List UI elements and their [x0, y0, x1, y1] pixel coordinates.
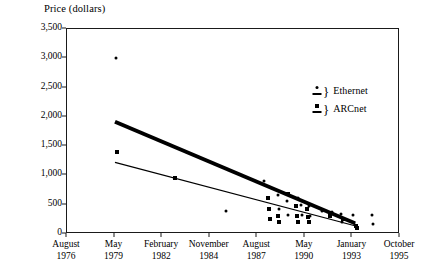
data-point-ethernet — [352, 213, 355, 216]
data-point-ethernet — [371, 214, 374, 217]
x-tick-month: August — [52, 239, 79, 251]
x-tick-label: May1979 — [104, 239, 123, 262]
data-point-ethernet — [331, 211, 334, 214]
data-point-arcnet — [341, 217, 345, 221]
data-point-arcnet — [115, 150, 119, 154]
chart-figure: Price (dollars) 05001,0001,5002,0002,500… — [0, 0, 442, 276]
data-point-arcnet — [328, 214, 332, 218]
x-tick-mark — [208, 233, 209, 237]
arcnet-marker-icon — [311, 103, 322, 116]
data-point-arcnet — [173, 176, 177, 180]
trend-line-ethernet — [115, 122, 355, 223]
x-tick-month: January — [337, 239, 367, 251]
data-point-ethernet — [301, 213, 304, 216]
x-tick-year: 1993 — [337, 251, 367, 263]
data-point-arcnet — [355, 226, 359, 230]
ethernet-marker-icon — [311, 85, 322, 98]
data-point-arcnet — [305, 207, 309, 211]
x-tick-label: February1982 — [144, 239, 178, 262]
x-tick-label: January1993 — [337, 239, 367, 262]
y-tick-label: 1,000 — [22, 170, 62, 180]
data-point-ethernet — [321, 209, 324, 212]
x-tick-mark — [351, 233, 352, 237]
x-tick-label: August1987 — [243, 239, 270, 262]
legend-label-ethernet: Ethernet — [333, 86, 368, 96]
data-point-ethernet — [115, 57, 118, 60]
brace-icon: } — [323, 85, 329, 98]
x-tick-mark — [161, 233, 162, 237]
x-tick-month: February — [144, 239, 178, 251]
data-point-arcnet — [286, 192, 290, 196]
x-axis-tick-labels: August1976May1979February1982November198… — [66, 233, 399, 273]
data-point-ethernet — [225, 209, 228, 212]
plot-inner — [67, 29, 398, 232]
legend-item-ethernet: } Ethernet — [311, 82, 368, 100]
data-point-arcnet — [267, 207, 271, 211]
y-tick-label: 3,500 — [22, 23, 62, 33]
x-tick-label: October1995 — [384, 239, 415, 262]
x-tick-mark — [303, 233, 304, 237]
chart-legend: } Ethernet } ARCnet — [311, 82, 368, 118]
brace-icon: } — [323, 103, 329, 116]
x-tick-year: 1990 — [294, 251, 313, 263]
x-tick-mark — [399, 233, 400, 237]
x-tick-year: 1984 — [189, 251, 229, 263]
data-point-arcnet — [307, 220, 311, 224]
data-point-ethernet — [287, 213, 290, 216]
data-point-ethernet — [276, 194, 279, 197]
x-tick-year: 1976 — [52, 251, 79, 263]
legend-label-arcnet: ARCnet — [333, 104, 366, 114]
x-tick-month: August — [243, 239, 270, 251]
y-axis-title: Price (dollars) — [44, 3, 105, 14]
x-tick-month: May — [104, 239, 123, 251]
x-tick-year: 1995 — [384, 251, 415, 263]
data-point-ethernet — [296, 196, 299, 199]
x-tick-mark — [256, 233, 257, 237]
y-tick-label: 2,500 — [22, 82, 62, 92]
x-tick-month: October — [384, 239, 415, 251]
data-point-arcnet — [277, 220, 281, 224]
x-tick-label: May1990 — [294, 239, 313, 262]
x-tick-month: May — [294, 239, 313, 251]
data-point-arcnet — [296, 220, 300, 224]
data-point-arcnet — [268, 217, 272, 221]
data-point-ethernet — [300, 203, 303, 206]
y-tick-label: 2,000 — [22, 111, 62, 121]
data-point-ethernet — [277, 207, 280, 210]
data-point-arcnet — [276, 214, 280, 218]
x-tick-month: November — [189, 239, 229, 251]
y-tick-label: 1,500 — [22, 140, 62, 150]
y-axis-tick-labels: 05001,0001,5002,0002,5003,0003,500 — [18, 28, 62, 233]
legend-item-arcnet: } ARCnet — [311, 100, 368, 118]
x-tick-mark — [113, 233, 114, 237]
x-tick-year: 1979 — [104, 251, 123, 263]
data-point-ethernet — [262, 180, 265, 183]
x-tick-year: 1982 — [144, 251, 178, 263]
data-point-ethernet — [340, 221, 343, 224]
y-tick-label: 0 — [22, 228, 62, 238]
data-point-arcnet — [306, 215, 310, 219]
plot-area — [66, 28, 399, 233]
data-point-ethernet — [340, 212, 343, 215]
data-point-arcnet — [294, 204, 298, 208]
x-tick-label: November1984 — [189, 239, 229, 262]
x-tick-label: August1976 — [52, 239, 79, 262]
y-tick-label: 500 — [22, 199, 62, 209]
data-point-arcnet — [266, 196, 270, 200]
data-point-ethernet — [372, 223, 375, 226]
x-tick-year: 1987 — [243, 251, 270, 263]
y-tick-label: 3,000 — [22, 53, 62, 63]
data-point-arcnet — [295, 214, 299, 218]
data-point-ethernet — [286, 200, 289, 203]
x-tick-mark — [66, 233, 67, 237]
